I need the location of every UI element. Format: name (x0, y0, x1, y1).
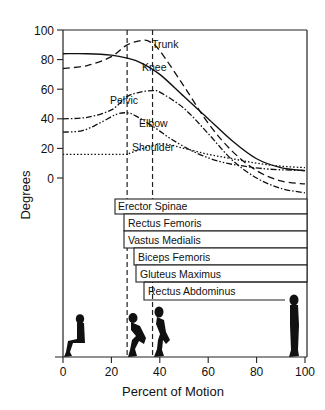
x-tick-label: 20 (105, 365, 119, 379)
plot-frame (55, 30, 307, 357)
bar-label: Vastus Medialis (128, 234, 201, 246)
bar-label: Gluteus Maximus (140, 268, 221, 280)
phase-marker-lines (127, 30, 152, 357)
muscle-activity-bars: Erector Spinae Rectus Femoris Vastus Med… (115, 199, 307, 300)
y-tick-label: 20 (41, 142, 55, 156)
y-tick-label: 80 (41, 53, 55, 67)
bar-label: Rectus Femoris (128, 217, 202, 229)
bar-label: Biceps Femoris (138, 251, 210, 263)
bar-rectus-femoris: Rectus Femoris (124, 214, 307, 231)
posture-figures (64, 295, 299, 358)
y-tick-label: 40 (41, 112, 55, 126)
curve-elbow (63, 113, 305, 171)
y-axis-ticks: 020406080100 (34, 24, 63, 186)
x-axis-ticks: 020406080100 (60, 357, 316, 379)
bar-biceps-femoris: Biceps Femoris (134, 248, 307, 265)
y-tick-label: 100 (34, 24, 54, 38)
bar-gluteus-maximus: Gluteus Maximus (136, 265, 307, 282)
curve-knee (63, 54, 305, 171)
y-axis-title: Degrees (18, 170, 33, 220)
y-tick-label: 60 (41, 83, 55, 97)
bar-rectus-abdominus: Rectus Abdominus (144, 282, 307, 300)
squat-lean-figure-icon (128, 313, 146, 357)
sitting-figure-icon (64, 314, 85, 357)
label-trunk: Trunk (152, 38, 179, 50)
x-tick-label: 100 (295, 365, 315, 379)
sit-to-stand-chart: 020406080100 020406080100 Trunk Knee Pel… (0, 0, 325, 410)
joint-angle-curves (63, 40, 305, 193)
x-tick-label: 60 (202, 365, 216, 379)
x-axis-title: Percent of Motion (122, 384, 224, 399)
curve-labels: Trunk Knee Pelvic Elbow Shoulder (110, 38, 179, 153)
x-tick-label: 40 (153, 365, 167, 379)
bar-label: Erector Spinae (118, 200, 188, 212)
label-shoulder: Shoulder (132, 141, 175, 153)
curve-trunk (63, 40, 305, 184)
label-pelvic: Pelvic (110, 94, 138, 106)
label-knee: Knee (142, 61, 167, 73)
bar-label: Rectus Abdominus (148, 285, 236, 297)
bar-vastus-medialis: Vastus Medialis (124, 231, 307, 248)
squat-rise-figure-icon (154, 307, 170, 358)
x-tick-label: 80 (250, 365, 264, 379)
x-tick-label: 0 (60, 365, 67, 379)
standing-figure-icon (289, 295, 299, 358)
label-elbow: Elbow (139, 117, 168, 129)
bar-erector-spinae: Erector Spinae (115, 199, 307, 214)
y-tick-label: 0 (47, 172, 54, 186)
